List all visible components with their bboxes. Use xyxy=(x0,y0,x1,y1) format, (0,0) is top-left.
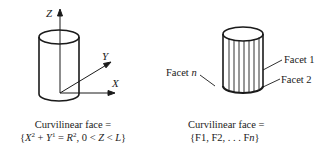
x-axis-arrowhead xyxy=(108,91,115,96)
left-caption: Curvilinear face = {X2 + Y1 = R2, 0 < Z … xyxy=(8,118,138,144)
right-caption: Curvilinear face = {F1, F2, . . . Fn} xyxy=(188,118,298,144)
z-axis-arrowhead xyxy=(58,9,63,16)
y-axis-label: Y xyxy=(102,50,110,62)
facet-2-label: Facet 2 xyxy=(281,74,312,85)
x-axis-label: X xyxy=(111,77,120,89)
op-lt: < xyxy=(104,132,115,143)
facet-n-word: Facet xyxy=(166,67,189,78)
facet-1-label: Facet 1 xyxy=(284,54,315,65)
facet-2-leader xyxy=(263,79,280,87)
y-axis-arrowhead xyxy=(104,62,112,68)
facet-1-leader xyxy=(263,60,282,70)
right-caption-formula: {F1, F2, . . . Fn} xyxy=(188,131,298,144)
left-cylinder-bottom-arc xyxy=(39,94,79,101)
facet-set-open: {F1, F2, . . . F xyxy=(190,132,249,143)
right-cylinder xyxy=(200,27,282,93)
facet-lines xyxy=(229,38,259,94)
z-axis-label: Z xyxy=(46,7,53,19)
y-axis xyxy=(60,64,108,93)
facet-n-label: Facet n xyxy=(166,67,197,78)
facet-set-close: } xyxy=(255,132,260,143)
facet-n-leader xyxy=(200,75,215,86)
brace-close: } xyxy=(121,132,126,143)
right-caption-line1: Curvilinear face = xyxy=(188,118,298,131)
op-plus: + xyxy=(35,132,46,143)
op-eq: = xyxy=(55,132,66,143)
left-caption-formula: {X2 + Y1 = R2, 0 < Z < L} xyxy=(8,131,138,144)
left-cylinder xyxy=(39,30,79,101)
left-caption-line1: Curvilinear face = xyxy=(8,118,138,131)
left-cylinder-top xyxy=(39,30,79,44)
range-start: , 0 < xyxy=(77,132,99,143)
facet-n-var: n xyxy=(191,67,196,78)
